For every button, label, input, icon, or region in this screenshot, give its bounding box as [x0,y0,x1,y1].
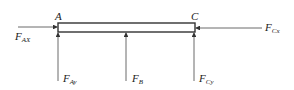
beam-free-body-diagram: A C FAX FCx FAy FB FCy [0,0,294,90]
force-label-fcx: FCx [264,21,280,35]
point-label-c: C [191,10,199,22]
force-label-fay: FAy [62,72,78,86]
point-label-a: A [54,10,62,22]
force-label-fax: FAX [14,30,31,44]
beam [58,23,195,32]
force-label-fb: FB [131,72,144,86]
force-label-fcy: FCy [198,72,214,86]
